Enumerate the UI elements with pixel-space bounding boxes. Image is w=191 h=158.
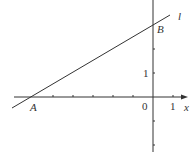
origin-label: 0: [142, 100, 148, 112]
line-l-label: l: [178, 10, 181, 22]
coordinate-diagram: A B l x 0 1 1: [0, 0, 191, 158]
point-a-label: A: [29, 101, 37, 113]
x-axis-label: x: [183, 101, 189, 113]
point-b-label: B: [157, 23, 164, 35]
y-unit-label: 1: [143, 67, 149, 79]
line-l: [12, 15, 170, 108]
x-axis-arrow-icon: [181, 95, 188, 100]
x-unit-label: 1: [170, 100, 176, 112]
